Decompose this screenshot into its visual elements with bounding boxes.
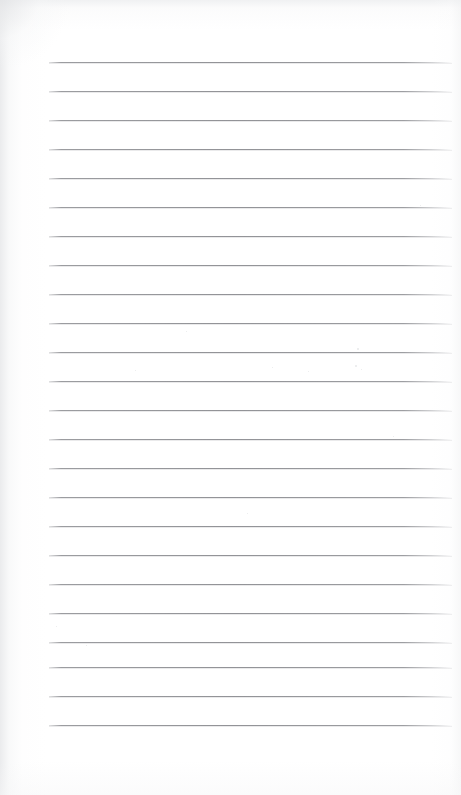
writing-line[interactable]	[49, 471, 452, 499]
writing-line[interactable]	[49, 181, 452, 209]
writing-line[interactable]	[49, 268, 452, 296]
writing-line[interactable]	[49, 297, 452, 325]
writing-line[interactable]	[49, 355, 452, 383]
writing-line[interactable]	[49, 641, 452, 669]
writing-line[interactable]	[49, 587, 452, 615]
writing-line[interactable]	[49, 558, 452, 586]
writing-line[interactable]	[49, 699, 452, 727]
writing-line[interactable]	[49, 239, 452, 267]
writing-line[interactable]	[49, 36, 452, 64]
writing-line[interactable]	[49, 670, 452, 698]
writing-line[interactable]	[49, 500, 452, 528]
writing-line[interactable]	[49, 65, 452, 93]
writing-line[interactable]	[49, 442, 452, 470]
writing-line[interactable]	[49, 384, 452, 412]
writing-line[interactable]	[49, 123, 452, 151]
writing-line[interactable]	[49, 94, 452, 122]
writing-line[interactable]	[49, 210, 452, 238]
writing-line[interactable]	[49, 529, 452, 557]
notepad-page	[0, 0, 461, 795]
writing-line[interactable]	[49, 616, 452, 644]
writing-line[interactable]	[49, 152, 452, 180]
writing-line[interactable]	[49, 326, 452, 354]
writing-line[interactable]	[49, 413, 452, 441]
